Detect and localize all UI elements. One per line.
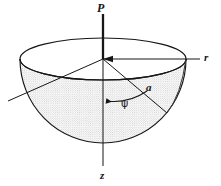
psi-angle-label: ψ [121, 98, 128, 109]
load-label: P [97, 2, 104, 14]
radius-label: a [146, 82, 152, 93]
hemisphere-figure: P r z a ψ [0, 0, 221, 186]
figure-canvas [0, 0, 221, 186]
z-axis-label: z [100, 170, 104, 181]
r-axis-label: r [204, 52, 208, 63]
